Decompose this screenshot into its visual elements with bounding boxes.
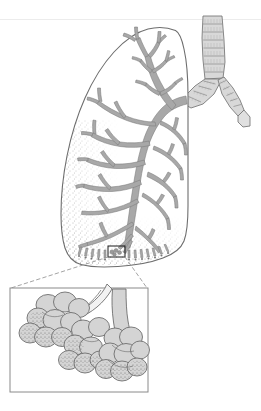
left-main-bronchus-group — [184, 79, 222, 108]
lung-illustration-svg — [0, 0, 261, 411]
right-main-bronchus-group — [218, 77, 250, 127]
trachea-group — [202, 16, 225, 79]
lung-anatomy-figure — [0, 0, 261, 411]
